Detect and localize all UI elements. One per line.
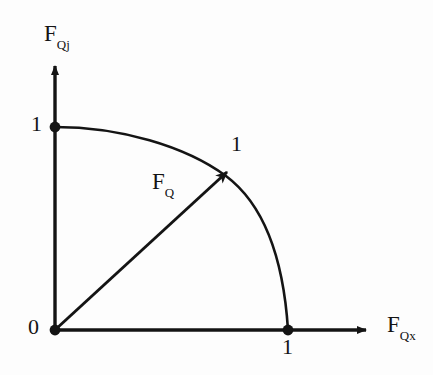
force-vector-label: FQ — [152, 170, 174, 195]
x-axis-label: FQx — [387, 313, 416, 338]
x-axis-label-base: F — [387, 312, 400, 337]
y-axis-label-base: F — [44, 21, 57, 46]
y-axis-label: FQj — [44, 22, 70, 47]
y-axis-label-subscript: Qj — [57, 37, 70, 52]
force-vector-label-subscript: Q — [165, 185, 174, 200]
origin-marker-dot — [50, 325, 61, 336]
origin-label: 0 — [28, 316, 39, 338]
vector-magnitude-label: 1 — [231, 133, 242, 155]
force-vector-arrow — [56, 172, 227, 329]
y-axis-tick-label-one: 1 — [31, 113, 42, 135]
figure-container: FQj FQx FQ 1 1 1 0 — [0, 0, 433, 375]
diagram-canvas — [0, 0, 433, 375]
x-axis-tick-label-one: 1 — [282, 336, 293, 358]
y-axis-unit-marker-dot — [50, 122, 61, 133]
force-vector-label-base: F — [152, 169, 165, 194]
x-axis-label-subscript: Qx — [400, 328, 416, 343]
